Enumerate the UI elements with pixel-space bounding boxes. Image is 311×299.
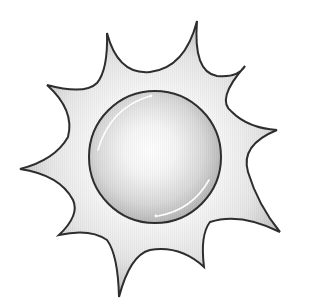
sun-icon: [0, 0, 311, 299]
sun-illustration: [0, 0, 311, 299]
